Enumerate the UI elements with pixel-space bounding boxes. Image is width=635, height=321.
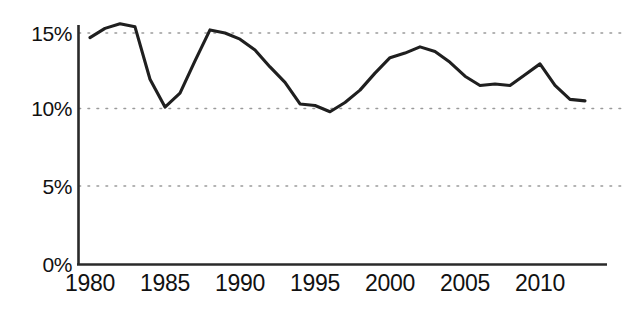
gridlines <box>79 33 626 186</box>
line-chart: 15% 10% 5% 0% 1980 1985 1990 1995 2000 2… <box>0 0 635 321</box>
y-tick-label-10: 10% <box>0 98 72 119</box>
y-tick-label-5: 5% <box>0 176 72 197</box>
y-tick-label-15: 15% <box>0 23 72 44</box>
data-series-line <box>90 24 585 112</box>
x-tick-label-2010: 2010 <box>495 272 585 295</box>
